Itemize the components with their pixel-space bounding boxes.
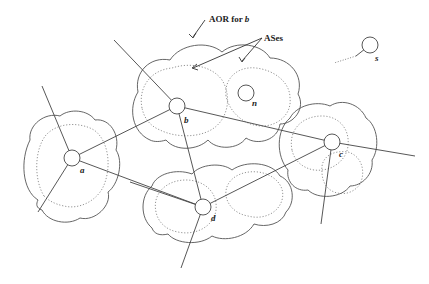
node-label-s: s	[374, 53, 379, 63]
node-c[interactable]	[324, 134, 340, 150]
edge-a-d	[72, 158, 203, 207]
node-label-n: n	[252, 98, 257, 108]
ext-link-a-up	[42, 86, 72, 158]
node-b[interactable]	[169, 98, 185, 114]
node-label-d: d	[211, 213, 216, 223]
aor-label-prefix: AOR for	[209, 14, 245, 24]
node-label-c: c	[339, 149, 343, 159]
ext-link-s-dotted	[334, 56, 356, 63]
node-a[interactable]	[64, 150, 80, 166]
aor-annotation-arrow	[189, 20, 205, 38]
ext-link-c-down	[321, 142, 332, 224]
aor-cloud-a	[24, 111, 120, 222]
aor-label: AOR for b	[209, 14, 250, 24]
aor-cloud-d	[143, 164, 292, 243]
node-s[interactable]	[362, 37, 378, 53]
ext-link-d-down	[181, 207, 203, 268]
ext-link-a-down	[38, 158, 72, 212]
edge-d-c	[203, 142, 332, 207]
node-label-b: b	[184, 115, 189, 125]
ext-link-c-right	[332, 142, 415, 156]
ext-link-b-up	[114, 40, 177, 106]
node-label-a: a	[80, 165, 85, 175]
network-diagram: a b c d n s AOR for b ASes	[0, 0, 429, 284]
edge-b-d	[177, 106, 203, 207]
node-d[interactable]	[195, 199, 211, 215]
edge-b-c	[177, 106, 332, 142]
aor-label-node: b	[245, 14, 250, 24]
aor-cloud-b	[133, 45, 301, 148]
ases-label: ASes	[264, 33, 283, 43]
ases-annotation-arrows	[192, 38, 262, 70]
